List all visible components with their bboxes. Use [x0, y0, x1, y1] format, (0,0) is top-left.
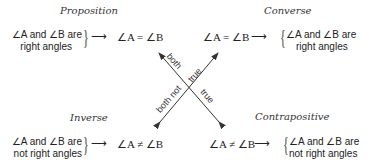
contrapositive-arrow: ⟶ [254, 137, 270, 150]
contrapositive-brace: { [283, 134, 289, 154]
proposition-brace: } [83, 27, 89, 47]
inverse-title: Inverse [70, 112, 108, 123]
label-true-lower: true [198, 87, 216, 105]
contrapositive-conclusion: ∠A and ∠B are not right angles [289, 136, 359, 160]
proposition-hypothesis: ∠A and ∠B are right angles [6, 29, 82, 53]
contrapositive-conclusion-line1: ∠A and ∠B are [289, 136, 359, 148]
proposition-hypothesis-line2: right angles [6, 41, 82, 53]
converse-title: Converse [264, 5, 312, 16]
proposition-conclusion: ∠A = ∠B [117, 31, 163, 44]
contrapositive-title: Contrapositive [255, 111, 329, 122]
inverse-arrow: ⟶ [91, 137, 107, 150]
converse-conclusion-line1: ∠A and ∠B are [286, 29, 356, 41]
proposition-arrow: ⟶ [91, 30, 107, 43]
converse-conclusion-line2: right angles [286, 41, 356, 53]
converse-conclusion: ∠A and ∠B are right angles [286, 29, 356, 53]
label-true-upper: true [186, 66, 204, 84]
contrapositive-hypothesis: ∠A ≠ ∠B [209, 138, 255, 151]
converse-brace: { [280, 27, 286, 47]
contrapositive-conclusion-line2: not right angles [289, 148, 359, 160]
inverse-hypothesis-line1: ∠A and ∠B are [4, 136, 82, 148]
converse-hypothesis: ∠A = ∠B [203, 31, 249, 44]
inverse-hypothesis: ∠A and ∠B are not right angles [4, 136, 82, 160]
proposition-hypothesis-line1: ∠A and ∠B are [6, 29, 82, 41]
label-both: both [165, 51, 184, 71]
inverse-hypothesis-line2: not right angles [4, 148, 82, 160]
converse-arrow: ⟶ [251, 30, 267, 43]
arrow-inverse-to-converse [160, 53, 218, 122]
inverse-brace: } [83, 134, 89, 154]
proposition-title: Proposition [60, 5, 118, 16]
inverse-conclusion: ∠A ≠ ∠B [117, 138, 163, 151]
